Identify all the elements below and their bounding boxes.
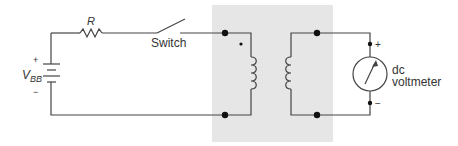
polarity-dot	[239, 42, 242, 45]
voltmeter-needle-arrow	[372, 60, 378, 67]
node-primary-bottom	[222, 112, 228, 118]
meter-label-line2: voltmeter	[392, 75, 441, 89]
node-secondary-bottom	[314, 112, 320, 118]
circuit-diagram: R Switch + VBB − + − dc voltmeter	[0, 0, 458, 146]
source-minus-label: −	[33, 87, 38, 97]
resistor-symbol	[80, 29, 102, 37]
node-meter-plus	[368, 42, 372, 46]
node-meter-minus	[368, 101, 372, 105]
circuit-svg: R Switch + VBB − + − dc voltmeter	[0, 0, 458, 146]
switch-label: Switch	[151, 36, 186, 50]
source-sub: BB	[30, 74, 42, 84]
wire-source-bottom	[51, 82, 225, 115]
resistor-label: R	[87, 15, 95, 27]
meter-minus-label: −	[375, 98, 381, 109]
source-plus-label: +	[33, 55, 38, 65]
node-secondary-top	[314, 30, 320, 36]
source-label: VBB	[22, 68, 42, 84]
transformer-box	[212, 5, 333, 142]
switch-blade	[157, 19, 185, 33]
meter-plus-label: +	[375, 39, 381, 50]
node-primary-top	[222, 30, 228, 36]
